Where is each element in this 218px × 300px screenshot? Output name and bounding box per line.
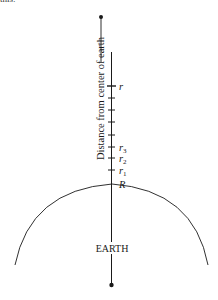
- earth-label: EARTH: [96, 243, 129, 254]
- tick-label-r1: r1: [119, 165, 127, 178]
- axis-label: Distance from center of earth: [95, 36, 106, 160]
- label-arrow-head-icon: [99, 15, 103, 19]
- tick-label-r: r: [119, 81, 124, 92]
- earth-center-dot: [109, 283, 113, 287]
- tick-label-R: R: [118, 179, 126, 190]
- earth-distance-diagram: Distance from center of earth r r3 r2 r1…: [0, 0, 218, 300]
